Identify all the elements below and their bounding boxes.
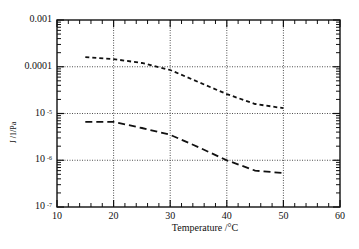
series-line-1 xyxy=(85,57,283,108)
x-tick-label: 20 xyxy=(99,211,129,221)
series-line-2 xyxy=(85,122,283,173)
x-tick-label: 50 xyxy=(268,211,298,221)
y-tick-label: 10-7 xyxy=(8,201,52,211)
gridlines xyxy=(57,20,340,207)
y-tick-label: 0.0001 xyxy=(8,61,52,71)
x-tick-label: 10 xyxy=(42,211,72,221)
x-axis-title: Temperature /°C xyxy=(140,222,270,233)
y-tick-label: 0.001 xyxy=(8,14,52,24)
x-tick-label: 60 xyxy=(325,211,355,221)
x-tick-label: 30 xyxy=(155,211,185,221)
data-series xyxy=(85,57,283,173)
y-axis-title: J /1/Pa xyxy=(9,98,18,168)
x-tick-label: 40 xyxy=(212,211,242,221)
